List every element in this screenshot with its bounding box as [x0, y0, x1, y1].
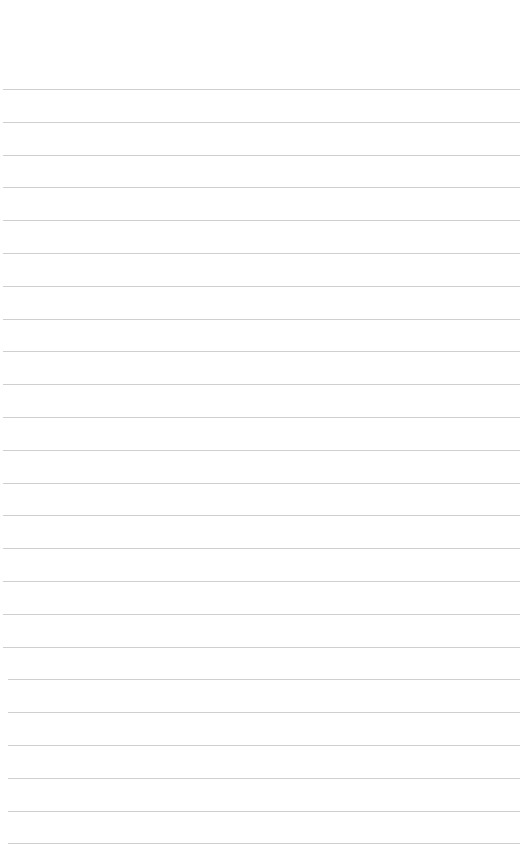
ruled-line — [3, 614, 520, 615]
ruled-line — [3, 647, 520, 648]
ruled-line — [3, 483, 520, 484]
ruled-line — [3, 253, 520, 254]
ruled-line — [3, 286, 520, 287]
ruled-line — [3, 155, 520, 156]
ruled-line — [3, 122, 520, 123]
ruled-line — [8, 811, 520, 812]
ruled-line — [8, 778, 520, 779]
ruled-line — [3, 384, 520, 385]
ruled-line — [3, 581, 520, 582]
ruled-line — [3, 417, 520, 418]
ruled-line — [3, 319, 520, 320]
ruled-line — [8, 843, 520, 844]
ruled-line — [8, 745, 520, 746]
ruled-line — [3, 220, 520, 221]
ruled-line — [3, 89, 520, 90]
lined-paper-page — [0, 0, 523, 867]
ruled-line — [3, 450, 520, 451]
ruled-line — [3, 548, 520, 549]
ruled-line — [3, 515, 520, 516]
ruled-line — [8, 679, 520, 680]
ruled-line — [8, 712, 520, 713]
ruled-line — [3, 187, 520, 188]
ruled-line — [3, 351, 520, 352]
